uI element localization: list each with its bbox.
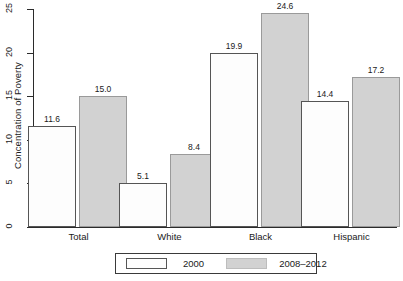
- x-axis-line: [33, 227, 397, 228]
- x-axis-label-total: Total: [33, 231, 124, 242]
- y-axis-tick-label: 5: [4, 169, 14, 195]
- legend-label-2000: 2000: [183, 258, 204, 269]
- y-axis-tick-label: 0: [4, 213, 14, 239]
- legend-label-2008-2012: 2008–2012: [279, 258, 327, 269]
- y-axis-tick-label: 25: [4, 0, 14, 21]
- y-axis-tick: [27, 227, 33, 228]
- legend-entry-2008-2012[interactable]: 2008–2012: [226, 254, 327, 273]
- x-axis-label-hispanic: Hispanic: [306, 231, 397, 242]
- x-axis-label-black: Black: [215, 231, 306, 242]
- legend-entry-2000[interactable]: 2000: [126, 254, 204, 273]
- bar-total-2000[interactable]: [28, 126, 76, 227]
- y-axis-tick-label: 15: [4, 82, 14, 108]
- bar-white-2000[interactable]: [119, 183, 167, 227]
- y-axis-tick-label: 10: [4, 126, 14, 152]
- bar-hispanic-2008-2012[interactable]: [352, 77, 400, 227]
- bar-value-label: 5.1: [119, 171, 167, 181]
- bar-value-label: 15.0: [79, 84, 127, 94]
- legend: 2000 2008–2012: [115, 253, 317, 274]
- bar-black-2000[interactable]: [210, 53, 258, 227]
- bar-value-label: 19.9: [210, 41, 258, 51]
- legend-swatch-2000: [126, 258, 167, 269]
- x-axis-label-white: White: [124, 231, 215, 242]
- bar-value-label: 24.6: [261, 1, 309, 11]
- bar-value-label: 14.4: [301, 89, 349, 99]
- y-axis-tick-label: 20: [4, 39, 14, 65]
- bar-value-label: 17.2: [352, 65, 400, 75]
- bar-value-label: 11.6: [28, 114, 76, 124]
- bar-hispanic-2000[interactable]: [301, 101, 349, 227]
- legend-swatch-2008-2012: [226, 258, 267, 269]
- plot-area: 11.615.05.18.419.924.614.417.2: [33, 9, 397, 227]
- chart-figure: Concentration of Poverty 0510152025 11.6…: [0, 0, 403, 281]
